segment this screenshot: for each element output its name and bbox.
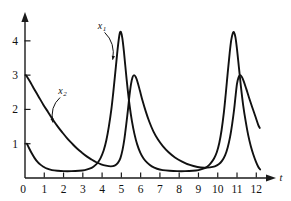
x-tick-label: 12: [251, 183, 263, 195]
x-tick-label: 5: [118, 183, 124, 195]
chart-figure: 0123456789101112 1234 x1x2 t: [0, 0, 291, 201]
y-tick-label: 4: [12, 35, 18, 47]
x-tick-label: 4: [99, 183, 105, 195]
x-axis-arrowhead: [266, 174, 276, 181]
x-tick-label: 8: [176, 183, 182, 195]
leader-arrowhead-x1: [112, 56, 115, 60]
axes-group: [21, 12, 276, 182]
series-annotations: x1x2: [50, 20, 115, 123]
leader-line-x1: [105, 32, 114, 59]
x-tick-label: 9: [196, 183, 202, 195]
y-axis-tick-labels: 1234: [12, 35, 18, 150]
data-curves: [26, 32, 260, 171]
origin-label: 0: [20, 183, 26, 195]
y-tick-label: 1: [12, 138, 18, 150]
chart-canvas: 0123456789101112 1234 x1x2 t: [0, 0, 291, 201]
series-label-x1: x1: [97, 20, 106, 33]
x-axis-label: t: [280, 172, 284, 183]
x-tick-label: 1: [41, 183, 47, 195]
x-tick-label: 6: [138, 183, 144, 195]
y-axis-arrowhead: [21, 12, 28, 22]
y-tick-label: 2: [12, 103, 18, 115]
x-tick-label: 3: [80, 183, 86, 195]
series-label-x2: x2: [57, 85, 67, 98]
y-tick-label: 3: [12, 69, 18, 81]
x-tick-label: 10: [212, 183, 224, 195]
x-axis-tick-labels: 0123456789101112: [20, 183, 262, 195]
x-tick-label: 2: [61, 183, 67, 195]
x-tick-label: 7: [157, 183, 163, 195]
x-tick-label: 11: [231, 183, 242, 195]
x-axis-ticks: [44, 173, 256, 178]
